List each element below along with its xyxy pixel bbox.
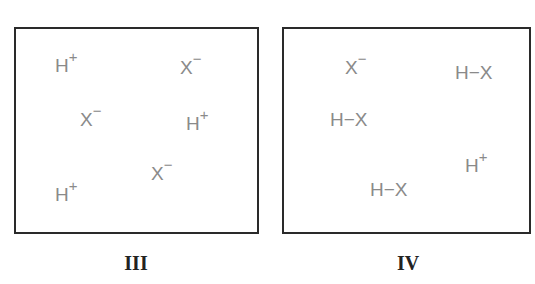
species-label: H−X bbox=[330, 110, 368, 129]
species-label: X− bbox=[80, 110, 101, 129]
charge-superscript: − bbox=[93, 102, 102, 119]
species-formula: X bbox=[151, 163, 164, 184]
species-formula: H−X bbox=[370, 179, 408, 200]
species-formula: H bbox=[55, 184, 69, 205]
species-formula: X bbox=[80, 109, 93, 130]
panel-iii-label: III bbox=[124, 252, 147, 275]
charge-superscript: + bbox=[479, 148, 488, 165]
charge-superscript: − bbox=[193, 50, 202, 67]
species-label: X− bbox=[151, 164, 172, 183]
species-label: H+ bbox=[186, 114, 209, 133]
species-label: X− bbox=[345, 58, 366, 77]
species-label: H+ bbox=[55, 185, 78, 204]
species-formula: H bbox=[465, 155, 479, 176]
species-formula: H−X bbox=[330, 109, 368, 130]
species-label: H+ bbox=[465, 156, 488, 175]
panel-iii-box bbox=[14, 27, 259, 234]
panel-iv-box bbox=[282, 27, 531, 234]
charge-superscript: − bbox=[358, 50, 367, 67]
charge-superscript: + bbox=[69, 177, 78, 194]
species-formula: H bbox=[55, 55, 69, 76]
species-formula: H−X bbox=[455, 62, 493, 83]
species-formula: H bbox=[186, 113, 200, 134]
species-label: H−X bbox=[455, 63, 493, 82]
charge-superscript: − bbox=[164, 156, 173, 173]
species-formula: X bbox=[180, 57, 193, 78]
charge-superscript: + bbox=[200, 106, 209, 123]
charge-superscript: + bbox=[69, 48, 78, 65]
species-label: H+ bbox=[55, 56, 78, 75]
panel-iv-label: IV bbox=[397, 252, 419, 275]
species-label: X− bbox=[180, 58, 201, 77]
species-formula: X bbox=[345, 57, 358, 78]
species-label: H−X bbox=[370, 180, 408, 199]
